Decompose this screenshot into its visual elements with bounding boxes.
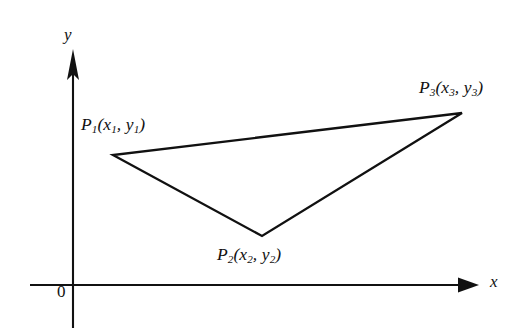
p2-comma: , xyxy=(253,244,262,264)
p3-close-paren: ) xyxy=(477,77,483,97)
p1-comma: , xyxy=(117,114,126,134)
p1-base: P xyxy=(81,114,92,134)
p1-close-paren: ) xyxy=(139,114,145,134)
y-axis-label: y xyxy=(64,26,72,43)
p2-base: P xyxy=(217,244,228,264)
point-label-p1: P1(x1, y1) xyxy=(81,116,145,135)
p1-y-var: y xyxy=(126,114,134,134)
origin-label: 0 xyxy=(57,283,66,300)
point-label-p2: P2(x2, y2) xyxy=(217,246,281,265)
x-axis-label: x xyxy=(490,273,498,290)
p3-y-var: y xyxy=(464,77,472,97)
p2-y-var: y xyxy=(262,244,270,264)
figure-canvas xyxy=(0,0,523,328)
triangle-polygon xyxy=(113,113,462,236)
p3-base: P xyxy=(419,77,430,97)
geometry-figure: y x 0 P1(x1, y1) P2(x2, y2) P3(x3, y3) xyxy=(0,0,523,328)
point-label-p3: P3(x3, y3) xyxy=(419,79,483,98)
p2-close-paren: ) xyxy=(275,244,281,264)
arrow-right-icon xyxy=(458,278,479,293)
p3-comma: , xyxy=(455,77,464,97)
